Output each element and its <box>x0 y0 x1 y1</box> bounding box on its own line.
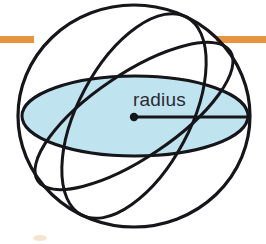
accent-rule-left-segment <box>0 36 34 43</box>
radius-label: radius <box>133 89 186 110</box>
sphere-radius-figure: radius <box>0 0 266 244</box>
bullet-mark-icon <box>33 235 47 241</box>
accent-rule-stub <box>222 36 266 43</box>
sphere-diagram-canvas: radius <box>0 0 266 244</box>
accent-rule <box>0 36 266 43</box>
sphere-center-dot <box>130 113 138 121</box>
